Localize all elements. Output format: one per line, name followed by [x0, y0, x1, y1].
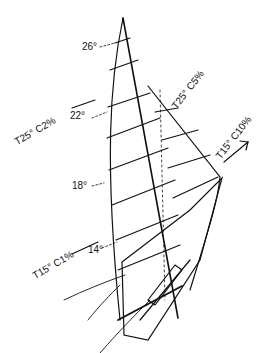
- angle-label-14: 14°: [88, 244, 103, 255]
- sailboat-drawing: [0, 0, 271, 353]
- sail-diagram: 26° 22° 18° 14° T25° C5% T25° C2% T15° C…: [0, 0, 271, 353]
- angle-label-22: 22°: [70, 110, 85, 121]
- angle-label-26: 26°: [82, 41, 97, 52]
- jib: [148, 86, 220, 290]
- hull: [122, 178, 222, 340]
- angle-label-18: 18°: [72, 180, 87, 191]
